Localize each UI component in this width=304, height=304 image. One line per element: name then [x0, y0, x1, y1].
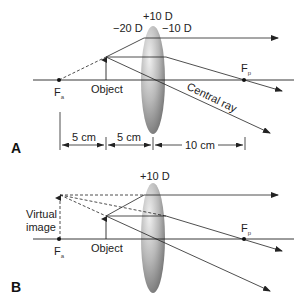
- lens-power-label-a: +10 D: [143, 10, 173, 22]
- vergence-right-label: −10 D: [162, 22, 192, 34]
- focal-point-fp-b: [242, 237, 246, 241]
- ray-top-a: [106, 38, 278, 57]
- fa-label-a: Fa: [54, 86, 65, 100]
- vergence-left-label: −20 D: [113, 22, 143, 34]
- panel-letter-b: B: [11, 279, 21, 295]
- ray-parallel-b: [106, 216, 282, 251]
- fa-label-b: Fa: [54, 245, 65, 259]
- focal-point-fa-a: [57, 78, 61, 82]
- panel-letter-a: A: [11, 140, 21, 156]
- focal-point-fa-b: [57, 237, 61, 241]
- dimension-label-2: 5 cm: [117, 131, 141, 143]
- dimension-label-1: 5 cm: [72, 131, 96, 143]
- optics-diagram: +10 D −20 D −10 D Fa Fp Object Central r…: [0, 0, 304, 304]
- object-label-a: Object: [91, 83, 123, 95]
- focal-point-fp-a: [242, 78, 246, 82]
- panel-a: +10 D −20 D −10 D Fa Fp Object Central r…: [11, 10, 294, 156]
- dimension-label-3: 10 cm: [185, 139, 215, 151]
- dashed-ray-a: [59, 57, 106, 80]
- dashed-ray-b3: [60, 195, 106, 216]
- ray-top-b: [106, 195, 278, 216]
- panel-b: +10 D Virtual image Fa Fp Object B: [11, 170, 294, 295]
- object-label-b: Object: [91, 242, 123, 254]
- fp-label-b: Fp: [241, 222, 252, 236]
- lens-b: [141, 183, 165, 293]
- lens-power-label-b: +10 D: [140, 170, 170, 182]
- virtual-image-label-1: Virtual: [26, 208, 57, 220]
- fp-label-a: Fp: [241, 62, 252, 76]
- virtual-image-label-2: image: [26, 221, 56, 233]
